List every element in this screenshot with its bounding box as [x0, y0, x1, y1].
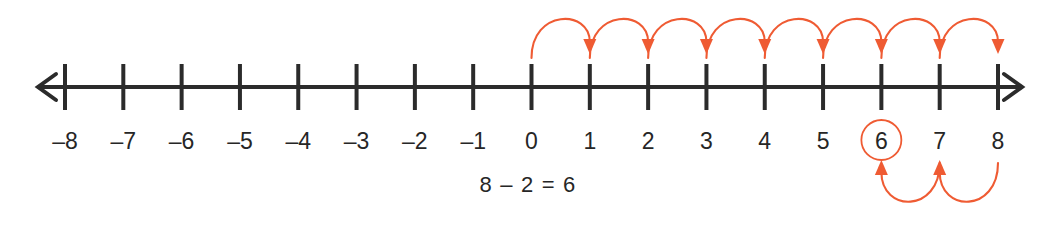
hop-arc: [881, 19, 939, 58]
equation-label: 8 – 2 = 6: [479, 172, 576, 197]
hop-arc: [706, 19, 764, 58]
tick-label: 8: [992, 128, 1005, 154]
tick-label: 3: [700, 128, 713, 154]
tick-label: 7: [933, 128, 946, 154]
hop-arc: [590, 19, 648, 58]
tick-label: 2: [642, 128, 655, 154]
hop-arc: [940, 163, 998, 202]
tick-label: –4: [285, 128, 311, 154]
hop-arc: [881, 163, 939, 202]
number-line-figure: –8–7–6–5–4–3–2–1012345678 8 – 2 = 6: [0, 0, 1052, 228]
tick-label: 4: [758, 128, 771, 154]
tick-label: –5: [227, 128, 253, 154]
forward-hops-group: [532, 19, 1005, 58]
hop-arc: [532, 19, 590, 58]
tick-label: 6: [875, 128, 888, 154]
hop-arrowhead-icon: [992, 39, 1005, 54]
tick-label: –8: [52, 128, 78, 154]
tick-label: 5: [817, 128, 830, 154]
tick-label: 0: [525, 128, 538, 154]
hop-arc: [823, 19, 881, 58]
hop-arc: [765, 19, 823, 58]
hop-arrowhead-icon: [875, 160, 888, 175]
tick-label: –1: [460, 128, 486, 154]
tick-label: –2: [402, 128, 428, 154]
tick-label: 1: [583, 128, 596, 154]
tick-label: –6: [169, 128, 195, 154]
tick-label: –7: [111, 128, 137, 154]
hop-arc: [940, 19, 998, 58]
number-line-svg: –8–7–6–5–4–3–2–1012345678 8 – 2 = 6: [0, 0, 1052, 228]
hop-arc: [648, 19, 706, 58]
tick-label: –3: [344, 128, 370, 154]
backward-hops-group: [875, 160, 998, 202]
